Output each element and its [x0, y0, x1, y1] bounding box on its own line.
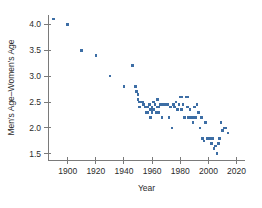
data-point-group [52, 18, 229, 155]
data-point [175, 101, 178, 104]
data-point [186, 106, 189, 109]
data-point [131, 64, 134, 67]
data-point [159, 103, 162, 106]
data-point [218, 137, 221, 140]
x-tick-label: 1920 [86, 166, 105, 176]
data-point [161, 116, 164, 119]
y-axis-title: Men's Age–Women's Age [6, 39, 16, 135]
data-point [176, 108, 179, 111]
data-point [138, 101, 141, 104]
data-point [158, 106, 161, 109]
y-tick-label: 2.0 [29, 123, 41, 133]
data-point [201, 137, 204, 140]
data-point [211, 137, 214, 140]
data-point [169, 106, 172, 109]
data-point [189, 108, 192, 111]
data-point [123, 85, 126, 88]
data-point [183, 116, 186, 119]
data-point [66, 23, 69, 26]
data-point [142, 103, 145, 106]
data-point [204, 121, 207, 124]
data-point [221, 129, 224, 132]
data-point [192, 121, 195, 124]
y-tick-label: 1.5 [29, 149, 41, 159]
data-point [178, 103, 181, 106]
data-point [166, 103, 169, 106]
data-point [217, 142, 220, 145]
scatter-plot-figure: 1.52.02.53.03.54.0 190019201940196019802… [0, 0, 262, 208]
x-tick-label: 2000 [199, 166, 218, 176]
x-tick-label: 2020 [227, 166, 246, 176]
y-tick-label: 4.0 [29, 19, 41, 29]
data-point [135, 90, 138, 93]
x-tick-label: 1960 [143, 166, 162, 176]
data-point [158, 111, 161, 114]
data-point [180, 96, 183, 99]
data-point [155, 111, 158, 114]
data-point [147, 106, 150, 109]
data-point [52, 18, 55, 21]
data-point [148, 103, 151, 106]
y-tick-label: 3.5 [29, 45, 41, 55]
data-point [137, 98, 140, 101]
data-point [199, 127, 202, 130]
data-point [192, 116, 195, 119]
data-point [196, 103, 199, 106]
data-point [152, 101, 155, 104]
data-point [151, 111, 154, 114]
data-point [197, 111, 200, 114]
data-point [173, 106, 176, 109]
data-point [213, 147, 216, 150]
data-point [227, 132, 230, 135]
data-point [187, 116, 190, 119]
data-point [171, 127, 174, 130]
data-point [156, 98, 159, 101]
data-point [149, 116, 152, 119]
data-point [224, 127, 227, 130]
data-point [180, 108, 183, 111]
data-point [134, 85, 137, 88]
chart-canvas: 1.52.02.53.03.54.0 190019201940196019802… [0, 0, 262, 208]
x-tick-label: 1900 [58, 166, 77, 176]
data-point [186, 96, 189, 99]
y-tick-label: 2.5 [29, 97, 41, 107]
data-point [80, 49, 83, 52]
data-point [141, 101, 144, 104]
data-point [137, 93, 140, 96]
y-tick-label: 3.0 [29, 71, 41, 81]
data-point [172, 103, 175, 106]
data-point [193, 106, 196, 109]
data-point [138, 106, 141, 109]
data-point [151, 106, 154, 109]
data-point [95, 54, 98, 57]
x-axis-title: Year [138, 183, 155, 193]
data-point [182, 103, 185, 106]
x-tick-label: 1940 [115, 166, 134, 176]
data-point [203, 140, 206, 143]
data-point [200, 116, 203, 119]
data-point [147, 111, 150, 114]
x-tick-label: 1980 [171, 166, 190, 176]
data-point [220, 121, 223, 124]
data-point [216, 152, 219, 155]
data-point [210, 142, 213, 145]
data-point [194, 116, 197, 119]
data-point [152, 108, 155, 111]
data-point [214, 145, 217, 148]
data-point [149, 108, 152, 111]
data-point [168, 116, 171, 119]
data-point [109, 75, 112, 78]
data-point [154, 103, 157, 106]
